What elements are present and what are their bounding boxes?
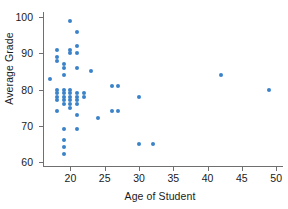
- x-tick-mark: [276, 167, 277, 171]
- y-axis-line: [43, 12, 44, 167]
- data-point: [110, 109, 114, 113]
- x-tick-mark: [70, 167, 71, 171]
- data-point: [48, 77, 52, 81]
- y-tick-label: 70: [21, 120, 33, 131]
- x-tick-mark: [105, 167, 106, 171]
- x-tick-mark: [242, 167, 243, 171]
- data-point: [267, 88, 271, 92]
- x-tick-mark: [208, 167, 209, 171]
- x-tick-label: 35: [167, 173, 179, 184]
- x-axis-line: [43, 166, 283, 167]
- x-tick-label: 25: [99, 173, 111, 184]
- y-tick-mark: 100: [39, 17, 43, 18]
- x-tick-label: 20: [65, 173, 77, 184]
- data-point: [137, 142, 141, 146]
- data-point: [219, 73, 223, 77]
- data-point: [62, 73, 66, 77]
- scatter-plot-figure: Average Grade Age of Student 60708090100…: [0, 0, 288, 209]
- data-point: [110, 84, 114, 88]
- data-point: [116, 84, 120, 88]
- data-point: [82, 95, 86, 99]
- data-point: [55, 48, 59, 52]
- data-point: [62, 145, 66, 149]
- data-point: [151, 142, 155, 146]
- y-axis-title: Average Grade: [1, 0, 17, 173]
- x-axis-title: Age of Student: [40, 190, 280, 202]
- data-point: [75, 51, 79, 55]
- data-point: [75, 30, 79, 34]
- x-tick-label: 50: [270, 173, 282, 184]
- y-tick-label: 90: [21, 48, 33, 59]
- data-point: [55, 109, 59, 113]
- x-tick-mark: [173, 167, 174, 171]
- data-point: [68, 106, 72, 110]
- data-point: [75, 66, 79, 70]
- x-tick-mark: [139, 167, 140, 171]
- data-point: [62, 102, 66, 106]
- data-point: [62, 138, 66, 142]
- data-point: [116, 109, 120, 113]
- data-point: [75, 44, 79, 48]
- data-point: [68, 19, 72, 23]
- x-tick-label: 40: [202, 173, 214, 184]
- data-point: [62, 127, 66, 131]
- y-tick-mark: 80: [39, 90, 43, 91]
- y-tick-mark: 90: [39, 53, 43, 54]
- data-point: [62, 66, 66, 70]
- data-point: [68, 51, 72, 55]
- y-tick-label: 100: [15, 12, 33, 23]
- data-point: [137, 95, 141, 99]
- y-tick-label: 60: [21, 156, 33, 167]
- data-point: [62, 152, 66, 156]
- x-tick-label: 30: [133, 173, 145, 184]
- y-tick-mark: 60: [39, 162, 43, 163]
- data-point: [89, 69, 93, 73]
- plot-area: 60708090100 20253035404550: [43, 12, 283, 167]
- data-point: [55, 59, 59, 63]
- data-point: [75, 113, 79, 117]
- data-point: [55, 98, 59, 102]
- data-point: [96, 116, 100, 120]
- y-tick-label: 80: [21, 84, 33, 95]
- y-tick-mark: 70: [39, 126, 43, 127]
- x-tick-label: 45: [236, 173, 248, 184]
- data-point: [75, 102, 79, 106]
- data-point: [75, 127, 79, 131]
